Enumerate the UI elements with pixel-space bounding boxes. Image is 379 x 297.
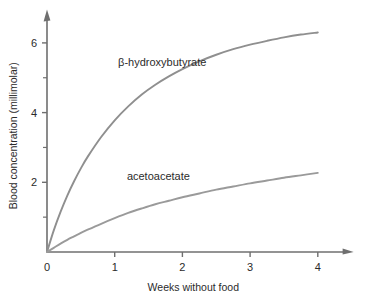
- x-axis-title: Weeks without food: [148, 281, 240, 293]
- chart-figure: 246 01234 β-hydroxybutyrateacetoacetate …: [0, 0, 379, 297]
- x-tick-label: 2: [179, 261, 185, 273]
- y-tick-label: 2: [31, 176, 37, 188]
- line-chart: 246 01234 β-hydroxybutyrateacetoacetate …: [0, 0, 379, 297]
- y-tick-label: 6: [31, 37, 37, 49]
- series-label-beta-hydroxybutyrate: β-hydroxybutyrate: [118, 56, 206, 68]
- x-tick-label: 1: [112, 261, 118, 273]
- y-axis-title: Blood concentration (millimolar): [7, 62, 19, 209]
- y-tick-label: 4: [31, 107, 37, 119]
- x-tick-label: 0: [44, 261, 50, 273]
- x-tick-label: 3: [247, 261, 253, 273]
- x-tick-label: 4: [315, 261, 321, 273]
- series-label-acetoacetate: acetoacetate: [127, 170, 190, 182]
